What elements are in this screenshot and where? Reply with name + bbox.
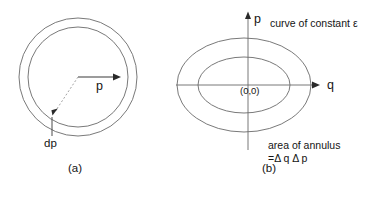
p-axis-arrow-head-icon — [245, 12, 251, 20]
thickness-dashed-line — [56, 77, 79, 111]
panel-a-caption: (a) — [68, 163, 82, 175]
panel-b-caption: (b) — [262, 163, 276, 175]
panel-a-radius-label: p — [96, 80, 103, 93]
panel-a-thickness-label: dp — [44, 138, 57, 150]
panel-b-graphics — [176, 12, 320, 151]
panel-b-vertical-axis-label: p — [254, 13, 261, 26]
panel-b-origin-label: (0,0) — [240, 86, 260, 96]
panel-b-area-note-line-1: area of annulus — [268, 140, 340, 151]
radius-arrow-head-icon — [113, 73, 121, 80]
panel-b-horizontal-axis-label: q — [327, 79, 334, 92]
panel-b-constant-energy-note: curve of constant ε — [270, 18, 358, 29]
thickness-arrow-head-icon — [51, 109, 57, 116]
figure-root: p dp (a) p q (0,0) curve of constant ε a… — [0, 0, 390, 206]
q-axis-arrow-head-icon — [312, 82, 320, 89]
figure-vector-canvas — [0, 0, 390, 206]
panel-a-graphics — [19, 18, 137, 136]
